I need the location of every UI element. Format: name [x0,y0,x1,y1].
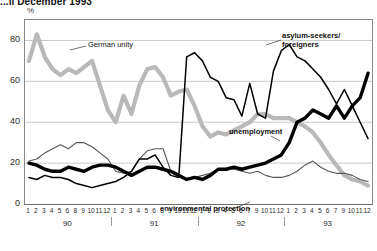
y-axis-tick-label: 80 [0,34,20,44]
x-axis-tick-label: 1 [26,207,30,214]
x-axis-tick-label: 2 [34,207,38,214]
x-axis-tick-label: 5 [144,207,148,214]
x-axis-tick-label: 3 [42,207,46,214]
x-axis-tick-label: 10 [348,207,355,214]
x-axis-tick-label: 4 [50,207,54,214]
x-axis-year-labels: 90919293 [24,219,373,233]
x-axis-tick-label: 11 [96,207,103,214]
series-line-unemployment [29,73,368,179]
x-axis-tick-label: 11 [356,207,363,214]
x-axis-tick-label: 12 [363,207,370,214]
x-axis-tick-label: 3 [129,207,133,214]
x-axis-tick-label: 6 [66,207,70,214]
x-axis-tick-label: 6 [326,207,330,214]
year-separator-tick [284,217,285,226]
x-axis-tick-label: 9 [342,207,346,214]
x-axis-tick-label: 5 [58,207,62,214]
x-axis-year-label: 92 [236,219,245,228]
x-axis-tick-label: 7 [334,207,338,214]
y-axis-tick-label: 0 [0,198,20,208]
x-axis-tick-label: 3 [302,207,306,214]
x-axis-tick-label: 11 [269,207,276,214]
x-axis-tick-label: 2 [121,207,125,214]
x-axis-tick-label: 2 [294,207,298,214]
x-axis-tick-label: 4 [310,207,314,214]
year-separator-tick [198,217,199,226]
chart-title: ...il December 1993 [0,0,260,5]
y-axis-tick-label: 20 [0,157,20,167]
x-axis-tick-label: 5 [318,207,322,214]
x-axis-tick-label: 10 [261,207,268,214]
series-label-asylum-seekers: asylum-seekers/ foreigners [282,32,340,49]
year-separator-tick [111,217,112,226]
series-label-german-unity: German unity [88,41,133,50]
x-axis-tick-label: 9 [81,207,85,214]
y-axis-unit-label: % [27,6,34,15]
x-axis-tick-label: 9 [255,207,259,214]
x-axis-tick-label: 6 [152,207,156,214]
x-axis-tick-label: 12 [277,207,284,214]
x-axis-tick-label: 12 [103,207,110,214]
series-line-environmental-protection [29,143,368,182]
x-axis-year-label: 93 [323,219,332,228]
x-axis-tick-label: 10 [87,207,94,214]
series-label-unemployment: unemployment [229,128,282,137]
x-axis-year-label: 91 [150,219,159,228]
x-axis-year-label: 90 [63,219,72,228]
y-axis-tick-label: 40 [0,116,20,126]
x-axis-tick-label: 8 [73,207,77,214]
x-axis-tick-label: 1 [113,207,117,214]
x-axis-tick-label: 4 [137,207,141,214]
series-label-environmental-protection: environmental protection [160,205,250,214]
x-axis-tick-label: 1 [286,207,290,214]
y-axis-tick-label: 60 [0,75,20,85]
